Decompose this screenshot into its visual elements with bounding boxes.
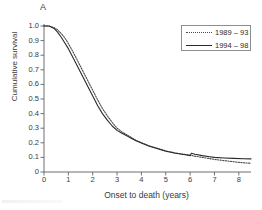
- y-tick-label: 1.0: [17, 22, 39, 30]
- scan-artifact: [2, 200, 62, 203]
- survival-chart-figure: A Cumulative survival Onset to death (ye…: [0, 0, 262, 210]
- y-tick-label: 0.1: [17, 153, 39, 161]
- legend-entry-1989-93: 1989 – 93: [182, 26, 252, 39]
- legend-entry-1994-98: 1994 – 98: [182, 39, 252, 52]
- legend-label: 1989 – 93: [215, 28, 248, 37]
- y-tick-label: 0: [17, 168, 39, 176]
- x-tick-label: 1: [61, 176, 75, 184]
- y-tick-label: 0.9: [17, 37, 39, 45]
- x-tick-label: 5: [159, 176, 173, 184]
- y-tick-label: 0.5: [17, 95, 39, 103]
- y-tick-label: 0.4: [17, 110, 39, 118]
- legend-swatch-solid-icon: [186, 45, 212, 46]
- y-tick-label: 0.6: [17, 80, 39, 88]
- x-tick-label: 0: [37, 176, 51, 184]
- y-tick-label: 0.8: [17, 51, 39, 59]
- x-tick-label: 4: [134, 176, 148, 184]
- panel-letter: A: [40, 2, 46, 12]
- x-tick-label: 2: [86, 176, 100, 184]
- x-tick-label: 8: [232, 176, 246, 184]
- legend-label: 1994 – 98: [215, 41, 248, 50]
- y-tick-label: 0.2: [17, 139, 39, 147]
- legend: 1989 – 93 1994 – 98: [181, 25, 251, 51]
- x-tick-label: 6: [183, 176, 197, 184]
- y-tick-label: 0.3: [17, 124, 39, 132]
- x-axis-label: Onset to death (years): [44, 190, 249, 200]
- y-tick-label: 0.7: [17, 66, 39, 74]
- x-tick-label: 7: [207, 176, 221, 184]
- x-tick-label: 3: [110, 176, 124, 184]
- legend-swatch-dotted-icon: [186, 32, 212, 33]
